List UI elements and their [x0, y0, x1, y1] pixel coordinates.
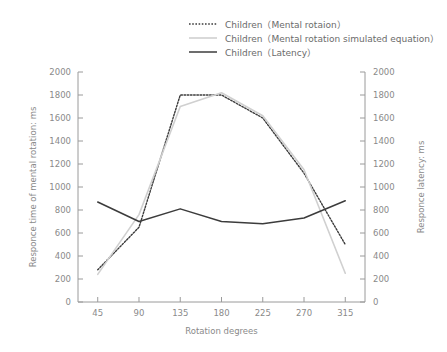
legend-label-1: Children（Mental rotaion）: [225, 20, 346, 30]
y-axis-title: Responce time of mental rotation: ms: [28, 106, 38, 267]
y2-axis-tick-label: 200: [373, 274, 389, 284]
y-axis-tick-label: 0: [66, 297, 71, 307]
chart-legend: Children（Mental rotaion）Children（Mental …: [189, 20, 439, 58]
y-axis-ticks: 0020020040040060060080080010001000120012…: [49, 67, 394, 307]
y-axis-tick-label: 1400: [49, 136, 71, 146]
y-axis-tick-label: 1600: [49, 113, 71, 123]
y-axis-tick-label: 800: [55, 205, 71, 215]
x-axis-tick-label: 45: [92, 308, 103, 318]
line-chart: 0020020040040060060080080010001000120012…: [0, 0, 447, 352]
x-axis-ticks: 4590135180225270315: [92, 297, 353, 318]
y-axis-tick-label: 1200: [49, 159, 71, 169]
y2-axis-title: Responce latency: ms: [416, 140, 426, 233]
series-line-2: [98, 93, 346, 275]
x-axis-tick-label: 270: [296, 308, 312, 318]
y-axis-tick-label: 600: [55, 228, 71, 238]
y-axis-tick-label: 2000: [49, 67, 71, 77]
y2-axis-tick-label: 1600: [373, 113, 395, 123]
chart-axes: [78, 72, 365, 302]
y-axis-tick-label: 1000: [49, 182, 71, 192]
legend-label-3: Children（Latency）: [225, 48, 316, 58]
y2-axis-tick-label: 800: [373, 205, 389, 215]
legend-label-2: Children（Mental rotation simulated equat…: [225, 34, 439, 44]
y2-axis-tick-label: 400: [373, 251, 389, 261]
x-axis-tick-label: 135: [172, 308, 188, 318]
x-axis-tick-label: 315: [337, 308, 353, 318]
y2-axis-tick-label: 2000: [373, 67, 395, 77]
x-axis-title: Rotation degrees: [185, 326, 258, 336]
x-axis-tick-label: 90: [134, 308, 145, 318]
chart-container: 0020020040040060060080080010001000120012…: [0, 0, 447, 352]
y-axis-tick-label: 200: [55, 274, 71, 284]
series-line-1: [98, 95, 346, 270]
y2-axis-tick-label: 1400: [373, 136, 395, 146]
y2-axis-tick-label: 600: [373, 228, 389, 238]
y2-axis-tick-label: 1800: [373, 90, 395, 100]
series-line-3: [98, 201, 346, 224]
x-axis-tick-label: 225: [255, 308, 271, 318]
y2-axis-tick-label: 1000: [373, 182, 395, 192]
x-axis-tick-label: 180: [213, 308, 229, 318]
y-axis-tick-label: 400: [55, 251, 71, 261]
y2-axis-tick-label: 1200: [373, 159, 395, 169]
y-axis-tick-label: 1800: [49, 90, 71, 100]
chart-series-group: [98, 93, 346, 275]
y2-axis-tick-label: 0: [373, 297, 378, 307]
